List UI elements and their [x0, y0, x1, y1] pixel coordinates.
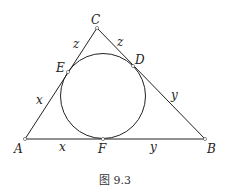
point-e [66, 70, 69, 73]
point-b [203, 137, 206, 140]
label-bd: y [170, 88, 178, 102]
point-a [23, 137, 26, 140]
figure-caption: 图 9.3 [99, 174, 131, 187]
label-cd: z [116, 35, 124, 49]
incircle-diagram: A B C E D F x x y y z z 图 9.3 [0, 0, 231, 192]
label-bf: y [149, 140, 157, 154]
label-d: D [134, 53, 145, 67]
point-f [101, 137, 104, 140]
label-a: A [13, 142, 23, 156]
label-ae: x [36, 93, 43, 107]
label-b: B [206, 142, 216, 156]
label-ce: z [72, 37, 80, 51]
label-af: x [59, 140, 66, 154]
label-e: E [55, 61, 65, 75]
triangle-abc [25, 28, 205, 139]
label-c: C [91, 13, 100, 27]
label-f: F [97, 142, 107, 156]
